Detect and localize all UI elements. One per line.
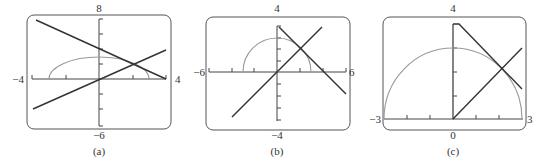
graph-a-xmin-label: −4 — [12, 73, 24, 85]
graph-a-caption: (a) — [93, 145, 106, 158]
graph-b-xmin-label: −6 — [193, 66, 205, 78]
graph-b-caption: (b) — [271, 145, 284, 158]
graph-b: 4 −4 −6 6 (b) — [193, 2, 355, 158]
graph-c-ymin-label: 0 — [450, 129, 456, 141]
graph-b-xmax-label: 6 — [349, 66, 355, 78]
graph-a: 8 −6 −4 4 (a) — [12, 2, 181, 158]
graph-a-xmax-label: 4 — [175, 73, 181, 85]
graph-c-frame — [383, 17, 526, 130]
graph-c-ymax-label: 4 — [450, 2, 456, 14]
graph-c-xmin-label: −3 — [369, 113, 381, 125]
graph-a-ymax-label: 8 — [96, 2, 102, 14]
graph-c-xmax-label: 3 — [527, 113, 533, 125]
graph-b-ymin-label: −4 — [271, 129, 283, 141]
graph-c: 4 0 −3 3 (c) — [369, 2, 533, 158]
figure: 8 −6 −4 4 (a) 4 −4 −6 6 (b) — [0, 0, 547, 166]
graph-c-line-y-equals-x — [453, 48, 522, 119]
graph-c-caption: (c) — [447, 145, 460, 158]
graph-a-decreasing-line — [36, 20, 166, 79]
graph-b-frame — [206, 17, 350, 130]
graph-a-ymin-label: −6 — [93, 129, 105, 141]
graph-c-line-y-equals-4-minus-x — [453, 24, 522, 89]
graph-b-ymax-label: 4 — [274, 2, 280, 14]
